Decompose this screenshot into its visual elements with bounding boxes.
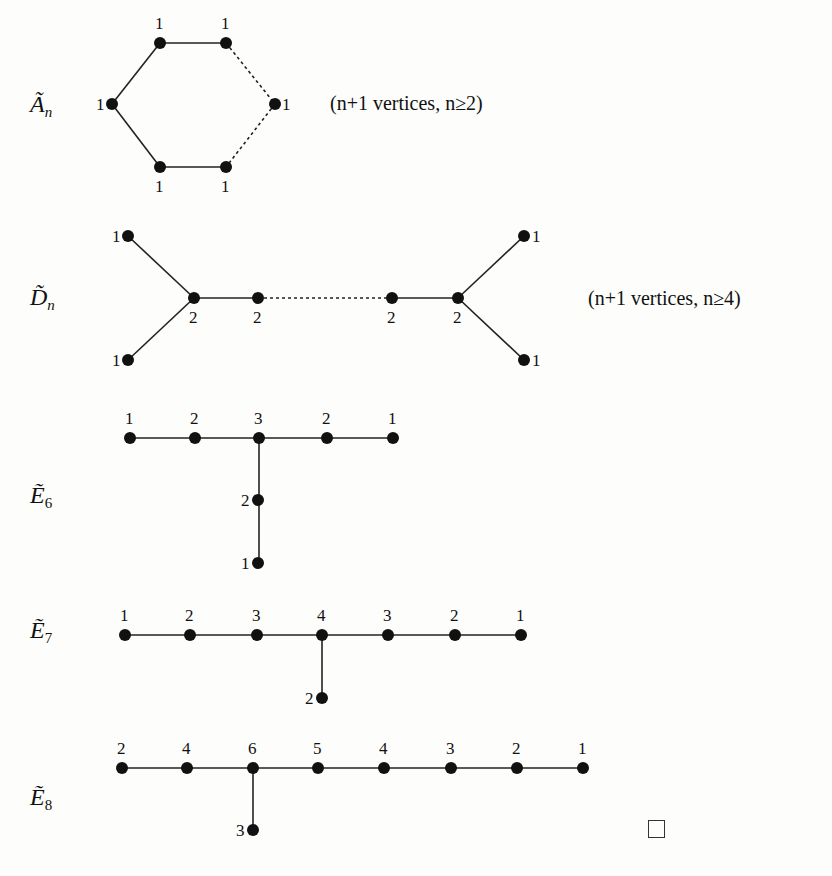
svg-text:2: 2 [189,308,198,327]
svg-text:2: 2 [117,739,126,758]
svg-text:3: 3 [236,821,245,840]
diagram-d-tilde-n: D̃n 1 1 2 2 2 2 1 1 [29,227,541,370]
svg-text:6: 6 [248,739,257,758]
svg-text:2: 2 [453,308,462,327]
svg-text:3: 3 [252,606,261,625]
svg-text:2: 2 [450,606,459,625]
svg-text:1: 1 [241,554,250,573]
svg-text:1: 1 [125,409,134,428]
end-of-proof-mark [648,820,665,838]
svg-text:2: 2 [322,409,331,428]
svg-text:1: 1 [532,351,541,370]
svg-text:4: 4 [379,739,388,758]
svg-text:Ẽ7: Ẽ7 [29,617,53,646]
svg-text:4: 4 [317,606,326,625]
diagram-e-tilde-8: Ẽ8 2 4 6 5 4 3 2 1 3 [29,739,589,840]
svg-text:1: 1 [578,739,587,758]
svg-text:2: 2 [253,308,262,327]
svg-text:4: 4 [182,739,191,758]
a-tilde-n-name: Ãn [28,91,52,120]
svg-text:2: 2 [512,739,521,758]
svg-text:1: 1 [112,351,121,370]
vertex-label: 1 [155,177,164,196]
diagram-e-tilde-7: Ẽ7 1 2 3 4 3 2 1 2 [29,606,527,708]
extended-dynkin-diagrams: Ãn 1 1 1 1 1 1 D̃n [0,0,832,876]
diagram-e-tilde-6: Ẽ6 1 2 3 2 1 2 1 [29,409,399,573]
svg-text:1: 1 [532,227,541,246]
vertex-label: 1 [221,14,230,33]
vertex-label: 1 [155,14,164,33]
svg-text:1: 1 [120,606,129,625]
svg-text:3: 3 [254,409,263,428]
svg-text:3: 3 [383,606,392,625]
svg-text:D̃n: D̃n [29,284,55,313]
svg-text:Ẽ6: Ẽ6 [29,482,53,511]
vertex-label: 1 [282,95,291,114]
svg-text:1: 1 [112,227,121,246]
svg-text:5: 5 [313,739,322,758]
svg-text:Ẽ8: Ẽ8 [29,784,52,813]
svg-text:3: 3 [446,739,455,758]
svg-text:1: 1 [388,409,397,428]
vertex-label: 1 [96,95,105,114]
svg-text:2: 2 [305,689,314,708]
svg-text:2: 2 [387,308,396,327]
d-tilde-note: (n+1 vertices, n≥4) [588,287,741,310]
vertex-label: 1 [221,177,230,196]
svg-text:1: 1 [516,606,525,625]
a-tilde-note: (n+1 vertices, n≥2) [330,92,483,115]
svg-text:2: 2 [190,409,199,428]
svg-text:2: 2 [185,606,194,625]
svg-text:2: 2 [241,491,250,510]
diagram-a-tilde-n: Ãn 1 1 1 1 1 1 [28,14,291,196]
